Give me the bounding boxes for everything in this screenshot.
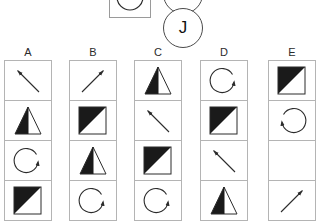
arrow-up-right-icon [275,184,309,218]
cell-d-3[interactable] [201,141,247,181]
answer-column-c: C [134,44,182,221]
column-header-c: C [134,44,182,60]
cell-e-4[interactable] [269,181,315,221]
cell-b-1[interactable] [70,61,116,101]
answer-columns: A B C D [0,44,322,223]
cell-b-3[interactable] [70,141,116,181]
circular-arrow-icon [76,184,110,218]
bubble-label: J [179,18,188,38]
circular-arrow-icon [141,184,175,218]
prompt-area: G J [0,0,322,44]
square-half-filled-icon [76,104,110,138]
cell-d-1[interactable] [201,61,247,101]
arrow-up-left-icon [11,64,45,98]
circle-arc-icon [110,0,150,17]
prompt-tile[interactable] [109,0,151,18]
column-header-d: D [200,44,248,60]
triangle-half-filled-icon [141,64,175,98]
bubble-label: G [176,0,190,5]
circular-arrow-icon [275,104,309,138]
cell-b-2[interactable] [70,101,116,141]
column-cells-c [134,60,182,221]
cell-c-4[interactable] [135,181,181,221]
answer-column-a: A [4,44,52,221]
square-half-filled-icon [207,104,241,138]
cell-d-4[interactable] [201,181,247,221]
cell-d-2[interactable] [201,101,247,141]
arrow-up-left-icon [141,104,175,138]
cell-e-2[interactable] [269,101,315,141]
cell-a-3[interactable] [5,141,51,181]
square-half-filled-icon [275,64,309,98]
column-cells-a [4,60,52,221]
arrow-up-right-icon [76,64,110,98]
triangle-half-filled-icon [207,184,241,218]
cell-e-1[interactable] [269,61,315,101]
cell-a-1[interactable] [5,61,51,101]
cell-a-4[interactable] [5,181,51,221]
cell-a-2[interactable] [5,101,51,141]
circular-arrow-icon [11,144,45,178]
column-header-b: B [69,44,117,60]
column-cells-d [200,60,248,221]
cell-c-2[interactable] [135,101,181,141]
answer-column-b: B [69,44,117,221]
answer-column-e: E [268,44,316,221]
column-cells-b [69,60,117,221]
arrow-up-left-icon [207,144,241,178]
column-cells-e [268,60,316,221]
cell-b-4[interactable] [70,181,116,221]
column-header-e: E [268,44,316,60]
square-half-filled-icon [141,144,175,178]
triangle-half-filled-icon [76,144,110,178]
column-header-a: A [4,44,52,60]
answer-column-d: D [200,44,248,221]
square-half-filled-icon [11,184,45,218]
triangle-half-filled-icon [11,104,45,138]
cell-e-3[interactable] [269,141,315,181]
cell-c-3[interactable] [135,141,181,181]
circular-arrow-icon [207,64,241,98]
bubble-letter-j[interactable]: J [163,8,203,48]
cell-c-1[interactable] [135,61,181,101]
